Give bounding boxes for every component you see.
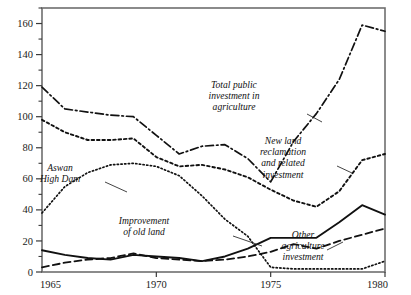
y-tick-label: 60 <box>23 173 34 184</box>
y-tick-label: 160 <box>17 18 33 29</box>
y-tick-label: 120 <box>17 80 33 91</box>
x-tick-label: 1970 <box>146 279 167 290</box>
x-tick-label: 1975 <box>260 279 281 290</box>
chart-figure: 020406080100120140160 1965197019751980 A… <box>0 0 411 295</box>
x-axis: 1965197019751980 <box>40 272 388 290</box>
y-tick-label: 80 <box>23 142 34 153</box>
y-axis: 020406080100120140160 <box>17 8 42 278</box>
annotation-label: New landreclamationand relatedinvestment <box>260 135 306 180</box>
y-tick-label: 40 <box>23 204 34 215</box>
y-tick-label: 20 <box>23 236 34 247</box>
x-tick-label: 1980 <box>367 279 388 290</box>
annotation-label: Improvementof old land <box>118 215 170 237</box>
y-tick-label: 100 <box>17 111 33 122</box>
line-chart: 020406080100120140160 1965197019751980 A… <box>0 0 411 295</box>
y-tick-label: 140 <box>17 49 33 60</box>
annotation-label: Total publicinvestment inagriculture <box>209 79 260 112</box>
x-tick-label: 1965 <box>40 279 61 290</box>
y-tick-label: 0 <box>28 267 33 278</box>
